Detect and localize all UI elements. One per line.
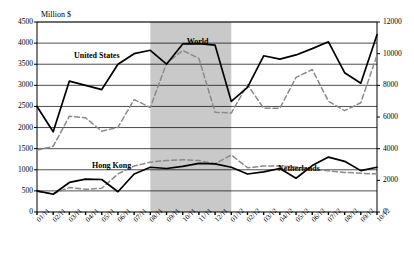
right-axis-tick: 10000 xyxy=(383,49,414,58)
left-axis-tick: 3000 xyxy=(0,80,33,89)
left-axis-tick-label: 1000 xyxy=(0,165,33,174)
series-label-united-states: United States xyxy=(74,51,120,60)
right-axis-tick-label: 8000 xyxy=(383,80,414,89)
left-axis-tick-label: 3500 xyxy=(0,59,33,68)
series-label-world: World xyxy=(187,37,209,46)
right-axis-tick: 2000 xyxy=(383,175,414,184)
left-axis-tick: 2000 xyxy=(0,123,33,132)
left-axis-tick-label: 3000 xyxy=(0,80,33,89)
right-axis-tick-label: 6000 xyxy=(383,112,414,121)
left-axis-tick: 1000 xyxy=(0,165,33,174)
left-axis-tick-label: 500 xyxy=(0,186,33,195)
left-axis-tick-label: 4500 xyxy=(0,17,33,26)
right-axis-tick: 4000 xyxy=(383,144,414,153)
right-axis-tick-label: 2000 xyxy=(383,175,414,184)
right-axis-tick: 6000 xyxy=(383,112,414,121)
series-label-hong-kong: Hong Kong xyxy=(92,161,131,170)
right-axis-tick-label: 4000 xyxy=(383,144,414,153)
left-axis-tick: 0 xyxy=(0,207,33,216)
series-label-netherlands: Netherlands xyxy=(278,164,320,173)
right-axis-tick-label: 10000 xyxy=(383,49,414,58)
left-axis-tick-label: 2000 xyxy=(0,123,33,132)
right-axis-tick: 12000 xyxy=(383,17,414,26)
left-axis-tick: 3500 xyxy=(0,59,33,68)
left-axis-tick: 4000 xyxy=(0,38,33,47)
left-axis-tick-label: 2500 xyxy=(0,101,33,110)
right-axis-tick-label: 12000 xyxy=(383,17,414,26)
left-axis-tick: 4500 xyxy=(0,17,33,26)
right-axis-tick: 8000 xyxy=(383,80,414,89)
left-axis-tick-label: 4000 xyxy=(0,38,33,47)
left-axis-tick: 1500 xyxy=(0,144,33,153)
chart-container: Million $ 050010001500200025003000350040… xyxy=(0,0,414,253)
left-axis-tick: 500 xyxy=(0,186,33,195)
left-axis-tick-label: 0 xyxy=(0,207,33,216)
left-axis-tick-label: 1500 xyxy=(0,144,33,153)
shaded-period-band xyxy=(150,22,231,212)
left-axis-tick: 2500 xyxy=(0,101,33,110)
